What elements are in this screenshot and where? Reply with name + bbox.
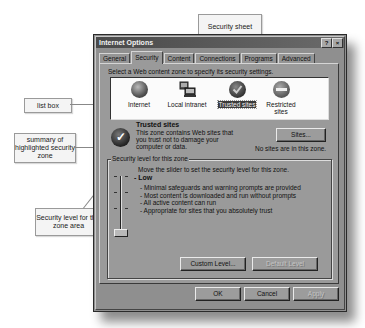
internet-options-dialog: Internet Options ? × General Security Co… — [93, 34, 347, 312]
check-circle-icon — [229, 81, 246, 98]
zone-local-intranet[interactable]: Local intranet — [165, 81, 209, 108]
level-item: - All active content can run — [140, 199, 301, 207]
level-name: - Low — [134, 174, 152, 181]
slider-tick — [125, 176, 128, 177]
ok-button[interactable]: OK — [195, 287, 241, 301]
slider-thumb[interactable] — [114, 229, 128, 237]
trusted-check-icon: ✓ — [111, 128, 130, 147]
close-button[interactable]: × — [332, 38, 343, 48]
window-title: Internet Options — [99, 39, 153, 46]
question-icon: ? — [325, 40, 329, 46]
computer-icon — [179, 81, 196, 98]
slider-tick — [125, 208, 128, 209]
level-description: - Minimal safeguards and warning prompts… — [140, 184, 301, 214]
zone-internet[interactable]: Internet — [117, 81, 161, 108]
zone-label: Local intranet — [166, 101, 207, 108]
zone-trusted-sites[interactable]: Trusted sites — [215, 81, 259, 108]
level-name-text: Low — [138, 174, 152, 181]
callout-summary: summary of highlighted security zone — [14, 133, 76, 163]
title-bar: Internet Options ? × — [96, 37, 344, 48]
apply-button[interactable]: Apply — [293, 287, 339, 301]
security-level-group: Security level for this zone Move the sl… — [107, 159, 332, 279]
zone-restricted-sites[interactable]: Restricted sites — [259, 81, 303, 115]
custom-level-button[interactable]: Custom Level... — [180, 257, 246, 271]
tab-strip: General Security Content Connections Pro… — [99, 51, 316, 63]
help-button[interactable]: ? — [321, 38, 332, 48]
group-legend: Security level for this zone — [111, 155, 189, 162]
slider-tick — [114, 176, 117, 177]
slider-tick — [125, 192, 128, 193]
level-item: - Appropriate for sites that you absolut… — [140, 207, 301, 215]
default-level-button[interactable]: Default Level — [252, 257, 318, 271]
callout-list-box: list box — [24, 98, 72, 113]
sites-button[interactable]: Sites... — [276, 128, 326, 142]
cancel-button[interactable]: Cancel — [244, 287, 290, 301]
level-item: - Most content is downloaded and run wit… — [140, 192, 301, 200]
no-entry-icon — [273, 81, 290, 98]
globe-icon — [131, 81, 148, 98]
zone-label: Internet — [127, 101, 151, 108]
close-icon: × — [336, 40, 340, 46]
callout-security-level: Security level for this zone area — [35, 208, 102, 236]
level-item: - Minimal safeguards and warning prompts… — [140, 184, 301, 192]
slider-track[interactable] — [120, 176, 121, 232]
zone-summary-description: This zone contains Web sites that you tr… — [136, 129, 236, 150]
slider-instruction: Move the slider to set the security leve… — [138, 166, 289, 173]
slider-tick — [114, 192, 117, 193]
slider-tick — [114, 208, 117, 209]
zone-label: Restricted sites — [259, 101, 303, 115]
zone-instruction: Select a Web content zone to specify its… — [108, 68, 273, 75]
no-sites-text: No sites are in this zone. — [255, 145, 326, 152]
zone-summary-title: Trusted sites — [136, 121, 179, 128]
security-sheet: Select a Web content zone to specify its… — [99, 63, 339, 284]
tab-security[interactable]: Security — [131, 51, 162, 64]
zone-label: Trusted sites — [218, 101, 257, 108]
zone-list-box[interactable]: Internet Local intranet Trusted sites Re… — [110, 77, 329, 120]
